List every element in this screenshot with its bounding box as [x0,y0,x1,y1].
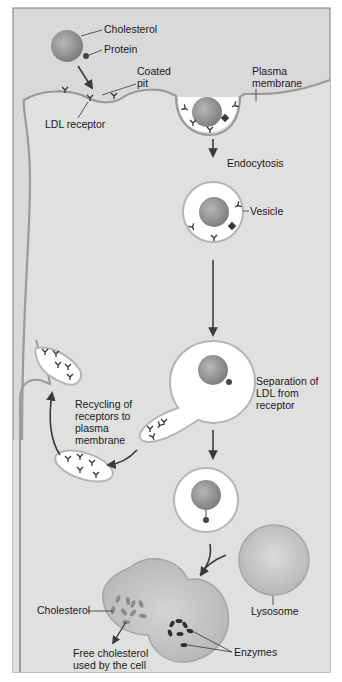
lysosome [239,525,309,595]
label-endocytosis: Endocytosis [227,157,284,169]
label-free-cholesterol-2: used by the cell [73,659,146,671]
label-lysosome: Lysosome [251,605,299,617]
label-separation-3: receptor [256,399,295,411]
label-plasma-membrane: Plasma [252,65,287,77]
late-vesicle [174,468,238,532]
label-ldl-receptor: LDL receptor [45,118,106,130]
label-separation-2: LDL from [256,387,299,399]
label-free-cholesterol: Free cholesterol [73,647,148,659]
label-recycling-2: receptors to [75,410,131,422]
label-enzymes: Enzymes [234,646,277,658]
label-cholesterol-top: Cholesterol [104,23,157,35]
label-cholesterol-bottom: Cholesterol [37,604,90,616]
label-protein: Protein [104,43,137,55]
label-recycling-3: plasma [75,422,109,434]
vesicle [183,182,243,242]
label-vesicle: Vesicle [250,205,283,217]
ldl-endocytosis-diagram: Cholesterol Protein Coated pit LDL recep… [0,0,342,682]
label-separation: Separation of [256,375,319,387]
label-plasma-membrane-2: membrane [252,77,302,89]
label-coated-pit: Coated [137,65,171,77]
label-recycling-4: membrane [75,434,125,446]
label-recycling: Recycling of [75,398,132,410]
label-coated-pit-2: pit [137,77,148,89]
